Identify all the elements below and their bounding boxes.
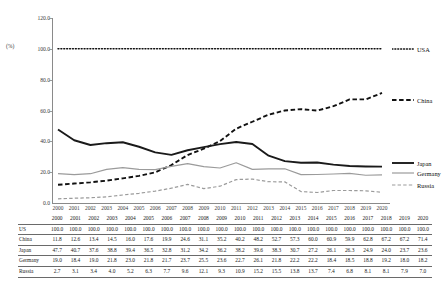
table-cell: 100.0 <box>139 224 157 235</box>
legend-label: China <box>417 97 432 104</box>
table-cell: 17.6 <box>139 235 157 246</box>
table-cell: 19.0 <box>48 256 66 267</box>
table-cell: 9.6 <box>176 266 194 277</box>
table-cell: 100.0 <box>194 224 212 235</box>
table-cell: 7.4 <box>322 266 340 277</box>
table-cell: 36.2 <box>213 245 231 256</box>
data-table: 2000200120022003200420052006200720082009… <box>18 214 432 278</box>
table-column-header: 2007 <box>176 214 194 224</box>
table-cell: 23.6 <box>213 256 231 267</box>
table-column-header: 2016 <box>341 214 359 224</box>
table-cell: 18.4 <box>322 256 340 267</box>
y-tick-label: 80.0 <box>4 77 50 83</box>
table-cell: 18.2 <box>414 256 432 267</box>
table-header-row: 2000200120022003200420052006200720082009… <box>18 214 432 224</box>
table-cell: 23.7 <box>395 245 413 256</box>
table-column-header: 2010 <box>231 214 249 224</box>
legend-label: Germany <box>417 170 441 177</box>
x-axis-line <box>52 203 390 204</box>
table-cell: 32.8 <box>158 245 176 256</box>
legend-label: USA <box>417 46 430 53</box>
table-cell: 15.2 <box>249 266 267 277</box>
table-cell: 19.0 <box>85 256 103 267</box>
series-plot <box>52 18 390 203</box>
table-cell: 48.2 <box>249 235 267 246</box>
legend-swatch-china <box>392 96 414 104</box>
table-cell: 5.2 <box>121 266 139 277</box>
table-cell: 35.2 <box>213 235 231 246</box>
table-cell: 100.0 <box>414 224 432 235</box>
table-cell: 10.9 <box>231 266 249 277</box>
chart-page: (%) 120.0100.080.060.040.020.00.0 200020… <box>0 0 444 282</box>
table-column-header: 2019 <box>395 214 413 224</box>
table-cell: 18.8 <box>359 256 377 267</box>
table-column-header: 2002 <box>85 214 103 224</box>
table-row: China11.812.613.414.516.017.619.924.631.… <box>18 235 432 246</box>
table-cell: 59.9 <box>341 235 359 246</box>
table-cell: 13.7 <box>304 266 322 277</box>
table-corner-header <box>18 214 48 224</box>
table-cell: 40.2 <box>231 235 249 246</box>
table-cell: 62.8 <box>359 235 377 246</box>
table-column-header: 2009 <box>213 214 231 224</box>
table-column-header: 2005 <box>139 214 157 224</box>
table-cell: 60.9 <box>322 235 340 246</box>
table-cell: 7.7 <box>158 266 176 277</box>
table-cell: 8.1 <box>359 266 377 277</box>
table-column-header: 2013 <box>286 214 304 224</box>
table-cell: 18.5 <box>341 256 359 267</box>
legend-entry-usa[interactable]: USA <box>392 44 430 54</box>
table-cell: 26.1 <box>249 256 267 267</box>
table-column-header: 2012 <box>267 214 285 224</box>
table-cell: 24.6 <box>176 235 194 246</box>
table-cell: 19.2 <box>377 256 395 267</box>
table-cell: 7.0 <box>414 266 432 277</box>
series-line-japan <box>58 129 382 166</box>
table-cell: 100.0 <box>66 224 84 235</box>
table-column-header: 2015 <box>322 214 340 224</box>
table-cell: 100.0 <box>48 224 66 235</box>
table-cell: 2.7 <box>48 266 66 277</box>
table-cell: 22.2 <box>286 256 304 267</box>
table-row-label: Japan <box>18 245 48 256</box>
table-cell: 16.0 <box>121 235 139 246</box>
table-cell: 6.8 <box>341 266 359 277</box>
table-cell: 6.3 <box>139 266 157 277</box>
table-cell: 100.0 <box>304 224 322 235</box>
table-cell: 100.0 <box>231 224 249 235</box>
legend-entry-germany[interactable]: Germany <box>392 168 441 178</box>
table-cell: 31.2 <box>176 245 194 256</box>
table-cell: 8.1 <box>377 266 395 277</box>
table-cell: 100.0 <box>85 224 103 235</box>
table-cell: 27.2 <box>304 245 322 256</box>
table-cell: 31.1 <box>194 235 212 246</box>
table-cell: 4.0 <box>103 266 121 277</box>
legend-entry-china[interactable]: China <box>392 95 432 105</box>
table-cell: 3.1 <box>66 266 84 277</box>
table-cell: 21.7 <box>158 256 176 267</box>
table-column-header: 2000 <box>48 214 66 224</box>
table-column-header: 2004 <box>121 214 139 224</box>
y-tick-label: 60.0 <box>4 108 50 114</box>
table-cell: 100.0 <box>121 224 139 235</box>
table-row-label: US <box>18 224 48 235</box>
table-cell: 26.3 <box>341 245 359 256</box>
legend-swatch-russia <box>392 181 414 189</box>
table-cell: 18.0 <box>395 256 413 267</box>
table-row: Russia2.73.13.44.05.26.37.79.612.19.310.… <box>18 266 432 277</box>
table-cell: 18.4 <box>66 256 84 267</box>
table-cell: 22.7 <box>231 256 249 267</box>
table-cell: 21.8 <box>103 256 121 267</box>
table-cell: 40.7 <box>66 245 84 256</box>
legend-entry-japan[interactable]: Japan <box>392 158 432 168</box>
table-cell: 67.2 <box>395 235 413 246</box>
table-column-header: 2018 <box>377 214 395 224</box>
table-cell: 13.8 <box>286 266 304 277</box>
legend-entry-russia[interactable]: Russia <box>392 180 434 190</box>
table-column-header: 2003 <box>103 214 121 224</box>
table-cell: 100.0 <box>377 224 395 235</box>
table-cell: 67.2 <box>377 235 395 246</box>
table-cell: 57.3 <box>286 235 304 246</box>
table-cell: 47.7 <box>48 245 66 256</box>
table-cell: 100.0 <box>213 224 231 235</box>
